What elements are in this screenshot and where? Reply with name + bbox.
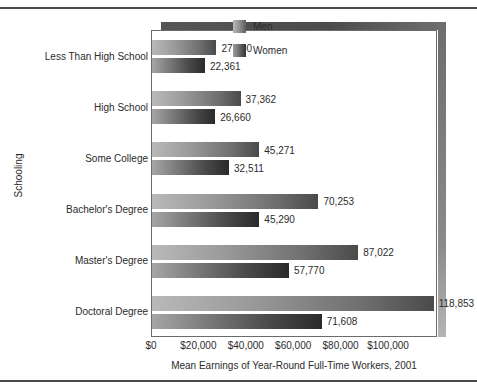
legend-item-women[interactable]: Women [233, 44, 287, 57]
plot-shadow-right [438, 22, 446, 337]
figure-bottom-rule [0, 380, 477, 382]
bar-value-women-5: 71,608 [327, 316, 358, 327]
bar-women-3 [152, 212, 259, 227]
x-axis-tick-group: $0$20,000$40,000$60,000$80,000$100,000 [0, 340, 477, 354]
bar-men-0 [152, 40, 216, 55]
bars-container: 27,19022,36137,36226,66045,27132,51170,2… [152, 31, 436, 336]
chart-legend: Men Women [233, 20, 287, 68]
bar-women-1 [152, 109, 215, 124]
x-axis-tick-4: $80,000 [323, 340, 359, 351]
plot-shadow-top [161, 22, 438, 30]
category-label-5: Doctoral Degree [75, 306, 148, 317]
bar-value-men-2: 45,271 [264, 144, 295, 155]
x-axis-tick-3: $60,000 [275, 340, 311, 351]
legend-label-men: Men [253, 21, 272, 32]
x-axis-title: Mean Earnings of Year-Round Full-Time Wo… [151, 360, 437, 371]
x-axis-tick-0: $0 [145, 340, 156, 351]
plot-area: 27,19022,36137,36226,66045,27132,51170,2… [151, 30, 437, 337]
category-label-3: Bachelor's Degree [66, 204, 148, 215]
x-axis-tick-5: $100,000 [367, 340, 409, 351]
bar-women-2 [152, 160, 229, 175]
legend-swatch-men-icon [233, 20, 246, 33]
category-label-group: Less Than High SchoolHigh SchoolSome Col… [28, 30, 148, 337]
bar-value-men-5: 118,853 [439, 298, 474, 309]
figure-top-rule [0, 7, 477, 9]
bar-men-5 [152, 296, 434, 311]
bar-men-3 [152, 194, 318, 209]
bar-value-women-4: 57,770 [294, 265, 325, 276]
category-label-4: Master's Degree [75, 255, 148, 266]
bar-value-men-1: 37,362 [246, 93, 277, 104]
bar-value-men-4: 87,022 [363, 247, 394, 258]
bar-value-women-3: 45,290 [264, 214, 295, 225]
y-axis-title: Schooling [13, 131, 24, 221]
x-axis-tick-2: $40,000 [228, 340, 264, 351]
bar-men-1 [152, 91, 241, 106]
bar-value-women-2: 32,511 [234, 162, 264, 173]
bar-women-0 [152, 58, 205, 73]
bar-men-4 [152, 245, 358, 260]
legend-swatch-women-icon [233, 44, 246, 57]
category-label-2: Some College [85, 152, 148, 163]
legend-label-women: Women [253, 45, 287, 56]
bar-value-women-1: 26,660 [220, 111, 251, 122]
x-axis-tick-1: $20,000 [180, 340, 216, 351]
bar-men-2 [152, 142, 259, 157]
legend-item-men[interactable]: Men [233, 20, 287, 33]
category-label-1: High School [94, 101, 148, 112]
bar-women-4 [152, 263, 289, 278]
bar-value-men-3: 70,253 [323, 196, 354, 207]
category-label-0: Less Than High School [45, 50, 148, 61]
bar-women-5 [152, 314, 322, 329]
